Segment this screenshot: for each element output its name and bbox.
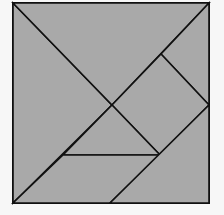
tangram-diagram: [0, 0, 224, 215]
tangram-pieces: [13, 3, 209, 203]
tangram-canvas: [0, 0, 224, 215]
